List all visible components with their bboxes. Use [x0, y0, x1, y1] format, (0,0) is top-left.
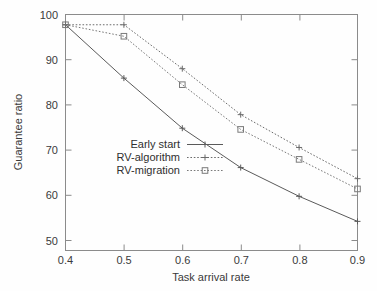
legend-line-samples — [187, 142, 223, 174]
y-axis-ticks — [66, 15, 358, 241]
y-tick-label-70: 70 — [46, 144, 58, 156]
y-tick-label-80: 80 — [46, 99, 58, 111]
legend-label-rv-migration: RV-migration — [117, 164, 180, 176]
plus-marker-icon — [238, 165, 244, 171]
plus-marker-icon — [296, 144, 302, 150]
y-tick-label-90: 90 — [46, 54, 58, 66]
guarantee-ratio-line-chart: 100 90 80 70 60 50 0.4 0.5 0.6 0.7 0.8 0… — [0, 0, 377, 291]
legend-label-rv-algorithm: RV-algorithm — [117, 151, 180, 163]
x-tick-label-0.7: 0.7 — [234, 254, 249, 266]
plus-marker-icon — [202, 155, 208, 161]
y-axis-title: Guarantee ratio — [12, 94, 24, 170]
x-tick-label-0.8: 0.8 — [292, 254, 307, 266]
x-axis-ticks — [66, 15, 358, 251]
chart-legend: Early start RV-algorithm RV-migration — [117, 138, 223, 176]
square-marker-icon — [296, 157, 302, 163]
x-axis-title: Task arrival rate — [172, 271, 250, 283]
plus-marker-icon — [355, 176, 361, 182]
series-early-start — [63, 22, 361, 225]
plus-marker-icon — [238, 112, 244, 118]
plus-marker-icon — [355, 218, 361, 224]
x-tick-label-0.4: 0.4 — [58, 254, 73, 266]
x-tick-label-0.6: 0.6 — [175, 254, 190, 266]
y-tick-label-60: 60 — [46, 189, 58, 201]
plot-frame — [66, 15, 358, 251]
x-tick-label-0.9: 0.9 — [350, 254, 365, 266]
legend-label-early-start: Early start — [130, 138, 180, 150]
y-tick-label-50: 50 — [46, 235, 58, 247]
series-line — [66, 25, 358, 189]
series-line — [66, 25, 358, 179]
y-tick-label-100: 100 — [40, 9, 58, 21]
series-rv-migration — [63, 22, 361, 192]
chart-container: 100 90 80 70 60 50 0.4 0.5 0.6 0.7 0.8 0… — [0, 0, 377, 291]
series-layer — [63, 22, 361, 225]
plus-marker-icon — [179, 66, 185, 72]
x-tick-label-0.5: 0.5 — [116, 254, 131, 266]
series-line — [66, 25, 358, 222]
plus-marker-icon — [296, 193, 302, 199]
